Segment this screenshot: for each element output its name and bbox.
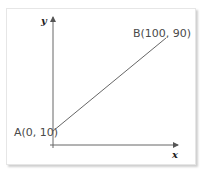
line-ab [53, 38, 166, 131]
line-graph: y x A(0, 10) B(100, 90) [0, 0, 204, 173]
point-a-label: A(0, 10) [14, 126, 58, 139]
x-axis-label: x [171, 149, 179, 160]
y-axis-label: y [40, 15, 48, 26]
point-b-label: B(100, 90) [133, 27, 191, 40]
